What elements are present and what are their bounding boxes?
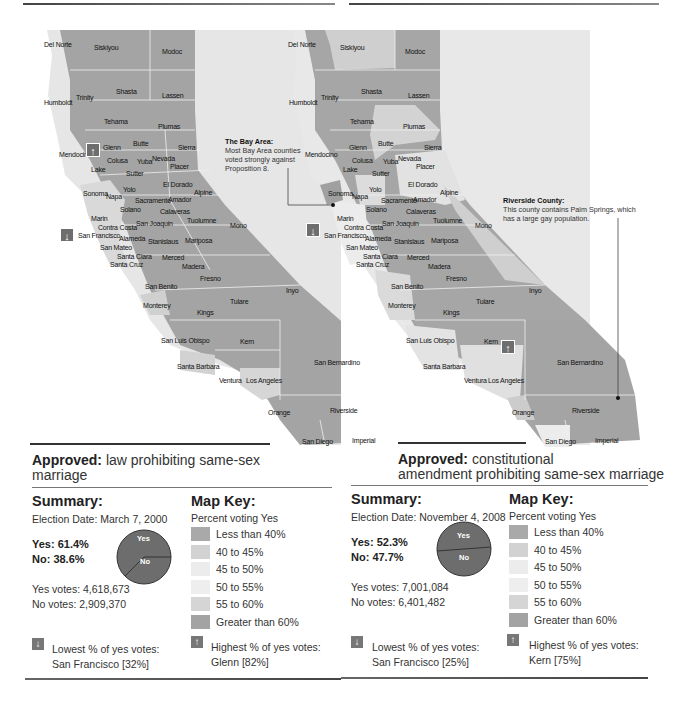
- legend-item: 50 to 55%: [509, 578, 581, 592]
- legend-label: 40 to 45%: [534, 544, 581, 556]
- lowest-value-2008: San Francisco [25%]: [372, 656, 469, 668]
- legend-swatch: [509, 613, 528, 627]
- legend-label: 55 to 60%: [534, 596, 581, 608]
- county-label: Del Norte: [288, 41, 316, 49]
- legend-item: 40 to 45%: [509, 543, 581, 557]
- no-votes-2008: No votes: 6,401,482: [351, 596, 445, 608]
- approved-heading-2008: Approved: constitutional amendment prohi…: [398, 452, 682, 482]
- legend-swatch: [509, 578, 528, 592]
- panel-2008: Del NorteSiskiyouModocHumboldtTrinitySha…: [0, 0, 341, 702]
- legend-swatch: [509, 543, 528, 557]
- legend-swatch: [509, 560, 528, 574]
- approved-label-2008: Approved:: [398, 451, 468, 467]
- approved-rule-bottom-2008: [351, 485, 648, 486]
- summary-title-2008: Summary:: [351, 491, 422, 507]
- yes-percent-2008: Yes: 52.3%: [351, 536, 408, 548]
- legend-swatch: [509, 525, 528, 539]
- approved-text-line2: amendment prohibiting same-sex marriage: [398, 466, 664, 482]
- map-key-title-2008: Map Key:: [509, 491, 573, 507]
- up-arrow-icon-2008: ↑: [507, 634, 519, 646]
- legend-swatch: [509, 595, 528, 609]
- pie-no-label-2008: No: [459, 553, 469, 562]
- county-label: Trinity: [321, 94, 338, 102]
- down-arrow-icon-2008: ↓: [351, 636, 363, 648]
- map-key-subtitle-2008: Percent voting Yes: [509, 510, 596, 522]
- legend-item: Greater than 60%: [509, 613, 617, 627]
- pie-chart-2008: [435, 520, 493, 578]
- bay-area-annotation-text: Most Bay Area counties voted strongly ag…: [225, 146, 301, 173]
- legend-item: 55 to 60%: [509, 595, 581, 609]
- legend-item: 45 to 50%: [509, 560, 581, 574]
- bay-area-annotation-title: The Bay Area:: [225, 137, 315, 146]
- legend-label: Greater than 60%: [534, 614, 617, 626]
- county-label: Humboldt: [289, 99, 317, 107]
- legend-label: 50 to 55%: [534, 579, 581, 591]
- legend-item: Less than 40%: [509, 525, 603, 539]
- pie-yes-label-2008: Yes: [457, 531, 470, 540]
- lowest-label-2008: Lowest % of yes votes:: [372, 641, 479, 653]
- approved-text-line1: constitutional: [472, 451, 554, 467]
- legend-label: Less than 40%: [534, 526, 603, 538]
- bay-area-annotation: The Bay Area: Most Bay Area counties vot…: [225, 137, 315, 173]
- no-percent-2008: No: 47.7%: [351, 551, 404, 563]
- panel-2008-info: Approved: constitutional amendment prohi…: [341, 0, 682, 702]
- lowest-yes-marker-san-francisco-2008: ↓: [306, 223, 320, 237]
- highest-value-2008: Kern [75%]: [529, 654, 581, 666]
- approved-rule-top-2008: [398, 442, 526, 444]
- legend-label: 45 to 50%: [534, 561, 581, 573]
- yes-votes-2008: Yes votes: 7,001,084: [351, 581, 449, 593]
- highest-label-2008: Highest % of yes votes:: [529, 639, 639, 651]
- bottom-rule-right: [341, 677, 648, 679]
